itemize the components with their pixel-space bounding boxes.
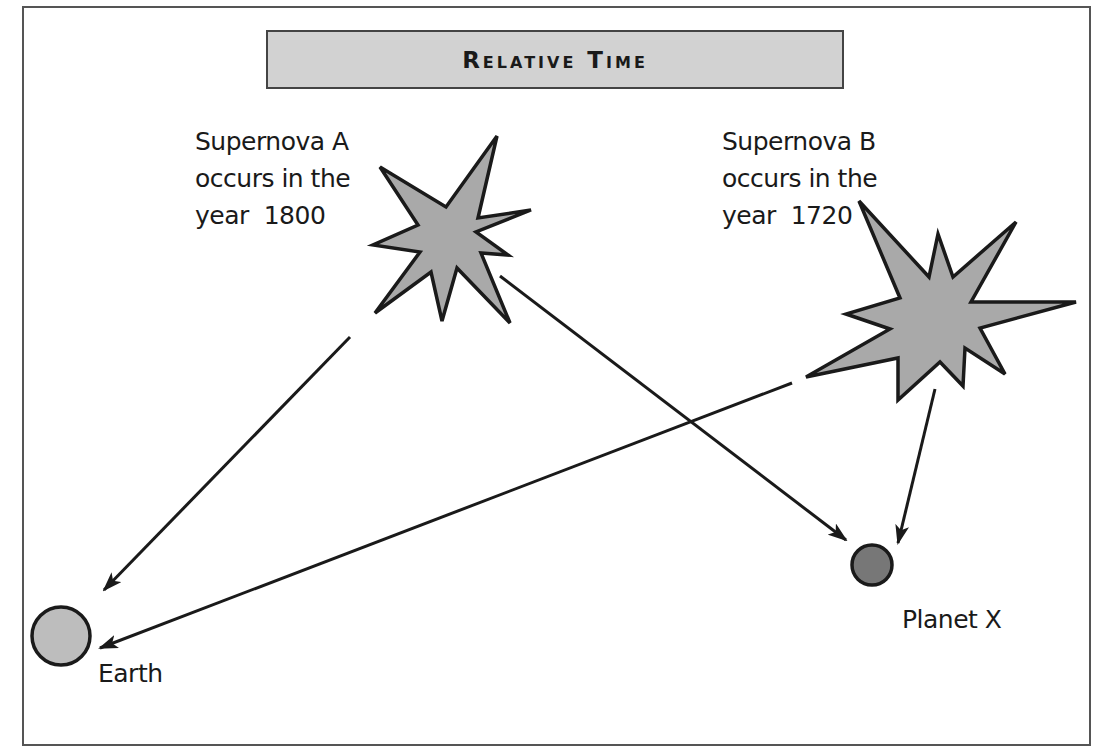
supernova-b-line-1: Supernova B bbox=[722, 123, 877, 160]
supernova-b-line-3: year 1720 bbox=[722, 197, 877, 234]
supernova-a-line-1: Supernova A bbox=[195, 123, 350, 160]
arrow-b-to-planet-x bbox=[898, 389, 935, 543]
supernova-a-star-icon bbox=[373, 136, 531, 323]
arrow-a-to-planet-x bbox=[500, 276, 846, 540]
planet-x-icon bbox=[852, 545, 892, 585]
earth-label: Earth bbox=[98, 655, 163, 692]
arrow-a-to-earth bbox=[104, 337, 350, 590]
supernova-a-line-3: year 1800 bbox=[195, 197, 350, 234]
earth-planet-icon bbox=[32, 607, 90, 665]
supernova-a-line-2: occurs in the bbox=[195, 160, 350, 197]
supernova-a-label: Supernova A occurs in the year 1800 bbox=[195, 123, 350, 234]
arrow-b-to-earth bbox=[100, 383, 792, 648]
supernova-b-label: Supernova B occurs in the year 1720 bbox=[722, 123, 877, 234]
planet-x-label: Planet X bbox=[902, 601, 1001, 638]
supernova-b-line-2: occurs in the bbox=[722, 160, 877, 197]
